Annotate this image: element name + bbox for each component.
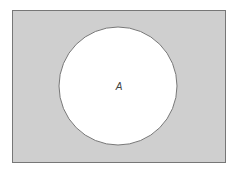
venn-diagram: A xyxy=(0,0,238,171)
set-a-label: A xyxy=(115,81,123,92)
